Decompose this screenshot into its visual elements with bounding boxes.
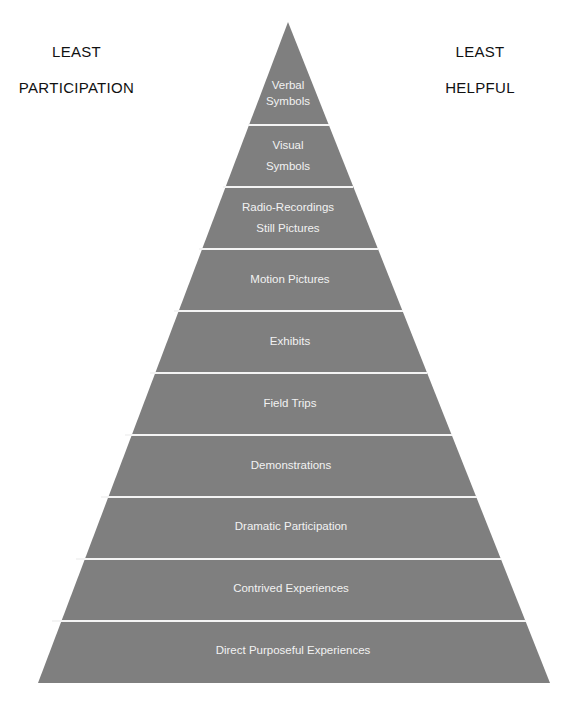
- layer-exhibits: Exhibits: [270, 336, 310, 348]
- layer-contrived-experiences: Contrived Experiences: [233, 583, 349, 595]
- layer-label-line1: Visual: [272, 139, 303, 151]
- layer-field-trips: Field Trips: [263, 398, 316, 410]
- layer-visual-symbols: Visual Symbols: [266, 140, 310, 172]
- layer-label-line2: Still Pictures: [242, 223, 334, 235]
- layer-label-line2: Symbols: [266, 96, 310, 108]
- layer-radio-recordings-still-pictures: Radio-Recordings Still Pictures: [242, 202, 334, 234]
- layer-direct-purposeful-experiences: Direct Purposeful Experiences: [216, 645, 371, 657]
- layer-label-line2: Symbols: [266, 161, 310, 173]
- layer-verbal-symbols: Verbal Symbols: [266, 80, 310, 107]
- layer-motion-pictures: Motion Pictures: [250, 274, 329, 286]
- layer-label-line1: Radio-Recordings: [242, 201, 334, 213]
- layer-demonstrations: Demonstrations: [251, 460, 332, 472]
- layer-label-line1: Verbal: [272, 79, 305, 91]
- layer-dramatic-participation: Dramatic Participation: [235, 521, 347, 533]
